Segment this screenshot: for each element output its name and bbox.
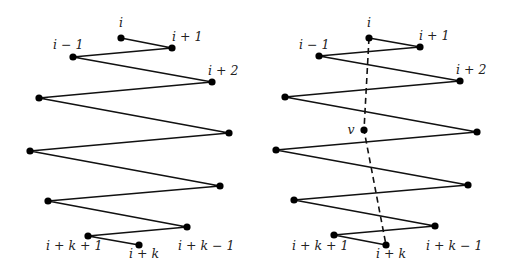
right-panel: ii + 1i − 1i + 2vi + k + 1i + ki + k − 1 <box>272 15 486 261</box>
node-iplus1 <box>416 43 423 50</box>
zigzag-path <box>276 38 477 245</box>
node-i <box>365 34 372 41</box>
node-label: i + k <box>129 246 159 261</box>
node-label: i <box>367 15 371 30</box>
node-label: i + k <box>376 246 406 261</box>
node-p5 <box>281 93 288 100</box>
left-panel: ii + 1i − 1i + 2i + k + 1i + ki + k − 1 <box>26 15 238 261</box>
node-p5 <box>35 94 42 101</box>
node-label: i − 1 <box>299 37 329 52</box>
node-p7 <box>272 146 279 153</box>
node-label: v <box>347 122 354 137</box>
node-iminus1 <box>315 52 322 59</box>
node-p6 <box>225 129 232 136</box>
node-p6 <box>473 128 480 135</box>
node-p9 <box>290 196 297 203</box>
node-p8 <box>464 181 471 188</box>
node-label: i + 1 <box>172 29 202 44</box>
node-iplus2 <box>456 77 463 84</box>
node-i <box>117 34 124 41</box>
node-ipluskminus1 <box>183 223 190 230</box>
node-iminus1 <box>69 53 76 60</box>
node-p8 <box>216 182 223 189</box>
node-label: i + 2 <box>456 62 486 77</box>
node-ipluskminus1 <box>431 222 438 229</box>
node-label: i + k − 1 <box>426 238 482 253</box>
node-label: i + k + 1 <box>46 238 102 253</box>
node-p9 <box>44 197 51 204</box>
node-label: i + 1 <box>419 28 449 43</box>
node-iplus2 <box>208 78 215 85</box>
node-p7 <box>26 147 33 154</box>
zigzag-path <box>30 38 229 245</box>
node-label: i <box>119 15 123 30</box>
node-label: i + k + 1 <box>292 238 348 253</box>
node-label: i − 1 <box>53 37 83 52</box>
node-v <box>360 126 367 133</box>
node-label: i + k − 1 <box>178 238 234 253</box>
node-iplus1 <box>168 44 175 51</box>
zigzag-diagram: ii + 1i − 1i + 2i + k + 1i + ki + k − 1 … <box>0 0 506 276</box>
node-label: i + 2 <box>208 63 238 78</box>
